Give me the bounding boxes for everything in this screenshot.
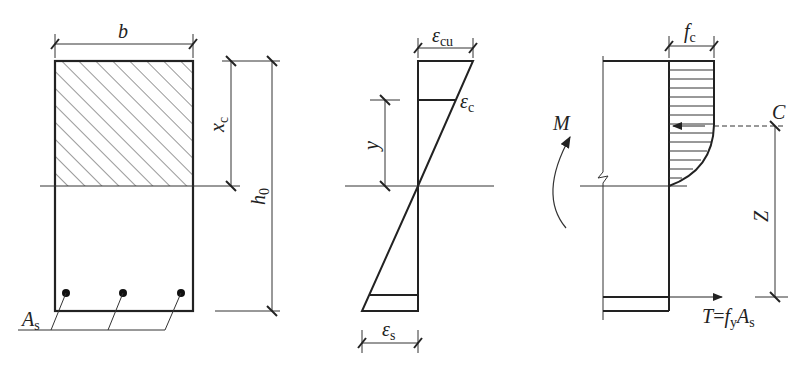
steel-area-label: As bbox=[20, 308, 40, 333]
tension-label: T=fyAs bbox=[702, 305, 755, 330]
width-label: b bbox=[118, 20, 128, 42]
concrete-strain-label: εc bbox=[460, 90, 474, 115]
depth-y-label: y bbox=[360, 141, 383, 152]
rc-section-diagram: b As xc bbox=[0, 0, 805, 370]
stress-diagram: fc C Z T=fyAs M bbox=[552, 20, 788, 330]
moment-label: M bbox=[552, 112, 571, 134]
stress-block-hatch bbox=[669, 70, 714, 178]
cross-section: b As xc bbox=[18, 20, 280, 333]
compression-depth-label: xc bbox=[206, 117, 231, 133]
strain-diagram: εcu εc y εs bbox=[345, 24, 494, 353]
moment-arrow bbox=[553, 137, 570, 228]
free-body-outline bbox=[598, 56, 608, 320]
steel-strain-label: εs bbox=[382, 318, 395, 343]
compression-zone-hatch bbox=[55, 61, 193, 186]
concrete-stress-label: fc bbox=[684, 20, 696, 45]
ultimate-strain-label: εcu bbox=[432, 24, 453, 49]
lever-arm-label: Z bbox=[750, 210, 772, 222]
compression-depth-dimension: xc bbox=[206, 56, 280, 191]
effective-depth-label: h0 bbox=[247, 188, 272, 205]
width-dimension: b bbox=[51, 20, 197, 58]
compression-label: C bbox=[772, 101, 786, 123]
